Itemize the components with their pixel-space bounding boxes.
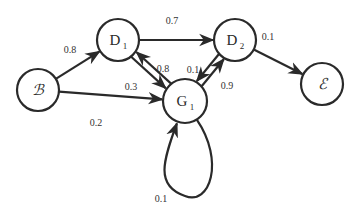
state-diagram: ℬD1D2ℰG1 0.80.20.70.30.80.10.90.10.1 xyxy=(0,0,352,215)
edge-d2-to-e xyxy=(254,49,303,74)
node-b: ℬ xyxy=(17,69,59,111)
edge-weight-label: 0.8 xyxy=(157,63,170,74)
edge-weight-label: 0.2 xyxy=(90,117,103,128)
edge-weight-label: 0.1 xyxy=(262,31,275,42)
edge-weight-label: 0.1 xyxy=(187,64,200,75)
edge-weight-label: 0.1 xyxy=(155,193,168,204)
edge-weight-label: 0.8 xyxy=(64,44,77,55)
node-subscript: 2 xyxy=(240,41,245,51)
node-subscript: 1 xyxy=(190,102,195,112)
edge-weight-label: 0.3 xyxy=(125,81,138,92)
node-label: D xyxy=(110,32,121,48)
node-d1: D1 xyxy=(97,19,139,61)
edge-weight-label: 0.9 xyxy=(221,80,234,91)
node-label: D xyxy=(227,32,238,48)
edge-weight-label: 0.7 xyxy=(166,15,179,26)
node-label: G xyxy=(177,93,188,109)
node-d2: D2 xyxy=(214,19,256,61)
node-e: ℰ xyxy=(301,63,343,105)
edge-b-to-g1 xyxy=(59,92,162,100)
edge-b-to-d1 xyxy=(56,52,100,79)
edge-g1-to-g1 xyxy=(164,120,212,198)
node-subscript: 1 xyxy=(123,41,128,51)
node-g1: G1 xyxy=(163,79,207,123)
node-label: ℬ xyxy=(32,82,45,98)
